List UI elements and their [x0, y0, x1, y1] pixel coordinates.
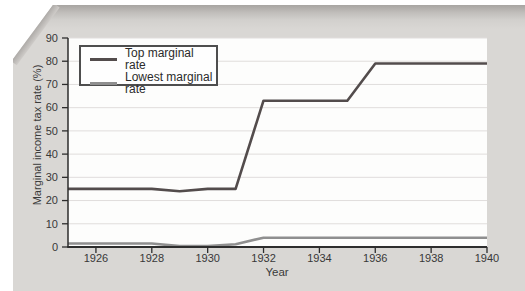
legend-label-top-marginal: Top marginal rate [125, 47, 216, 71]
svg-text:90: 90 [46, 32, 58, 44]
legend-swatch-lowest-marginal [90, 82, 117, 85]
svg-text:1938: 1938 [419, 252, 443, 264]
figure: 0102030405060708090192619281930193219341… [0, 0, 525, 291]
svg-text:1936: 1936 [363, 252, 387, 264]
svg-text:1940: 1940 [475, 252, 499, 264]
svg-text:1932: 1932 [251, 252, 275, 264]
x-axis-title: Year [265, 266, 288, 278]
svg-text:50: 50 [46, 125, 58, 137]
svg-text:0: 0 [52, 241, 58, 253]
svg-text:80: 80 [46, 55, 58, 67]
legend: Top marginal rate Lowest marginal rate [79, 45, 218, 86]
svg-text:1934: 1934 [307, 252, 331, 264]
svg-text:70: 70 [46, 78, 58, 90]
legend-label-lowest-marginal: Lowest marginal rate [125, 71, 216, 95]
svg-text:1928: 1928 [140, 252, 164, 264]
svg-text:1926: 1926 [84, 252, 108, 264]
y-axis-title: Marginal income tax rate (%) [31, 65, 43, 206]
legend-item-lowest-marginal: Lowest marginal rate [90, 71, 216, 95]
svg-text:1930: 1930 [195, 252, 219, 264]
svg-text:30: 30 [46, 171, 58, 183]
svg-text:60: 60 [46, 101, 58, 113]
svg-text:10: 10 [46, 218, 58, 230]
legend-item-top-marginal: Top marginal rate [90, 47, 216, 71]
svg-text:40: 40 [46, 148, 58, 160]
svg-text:20: 20 [46, 194, 58, 206]
legend-swatch-top-marginal [90, 58, 117, 61]
chart-canvas: 0102030405060708090192619281930193219341… [0, 0, 525, 291]
